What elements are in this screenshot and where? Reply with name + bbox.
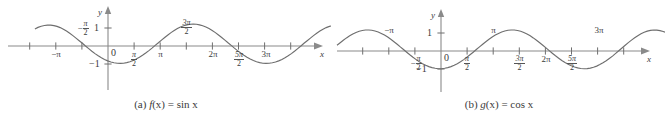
cosine-x-tick-label-pi: π	[484, 26, 503, 35]
sine-caption-arg: (x)	[152, 98, 165, 110]
cosine-x-axis-label: x	[647, 54, 651, 64]
cosine-curve	[337, 30, 665, 69]
fraction: 5π2	[567, 55, 577, 72]
sine-x-tick-label-neg-pi-over-2: −π2	[71, 20, 95, 37]
cosine-x-tick-label-5pi-over-2: 5π2	[562, 55, 582, 72]
sine-plot: 0 y x 1 −1 −π −π2 π2 π 3π2 2π 5π2 3π	[0, 0, 332, 96]
cosine-svg	[333, 0, 665, 96]
cosine-plot: 0 y x 1 −1 −π −π2 π2 π 3π2 2π 5π2 3π	[333, 0, 665, 96]
sine-y-tick-label-neg1: −1	[89, 58, 100, 69]
cosine-origin-label: 0	[444, 52, 449, 63]
cosine-y-tick-label-1: 1	[427, 27, 432, 38]
cosine-caption-equals: =	[501, 98, 507, 110]
cosine-panel: 0 y x 1 −1 −π −π2 π2 π 3π2 2π 5π2 3π (b)…	[333, 0, 665, 122]
trig-graphs-figure: 0 y x 1 −1 −π −π2 π2 π 3π2 2π 5π2 3π (a)…	[0, 0, 665, 122]
cosine-x-tick-label-3pi-over-2: 3π2	[510, 55, 529, 72]
fraction: π2	[464, 55, 470, 72]
cosine-caption-index: (b)	[465, 98, 478, 110]
cosine-y-axis-label: y	[431, 10, 435, 20]
cosine-caption-expression: cos x	[510, 98, 533, 110]
cosine-caption-arg: (x)	[486, 98, 499, 110]
sine-x-axis-label: x	[320, 49, 324, 59]
sine-panel: 0 y x 1 −1 −π −π2 π2 π 3π2 2π 5π2 3π (a)…	[0, 0, 332, 122]
cosine-caption: (b) g(x) = cos x	[333, 98, 665, 110]
sine-y-axis-label: y	[98, 7, 102, 17]
sine-x-tick-label-neg-pi: −π	[45, 50, 67, 59]
fraction: 5π2	[234, 51, 244, 68]
fraction: π2	[131, 51, 137, 68]
cosine-x-tick-label-pi-over-2: π2	[457, 55, 477, 72]
sine-x-tick-label-3pi: 3π	[255, 50, 277, 59]
sine-x-tick-label-5pi-over-2: 5π2	[229, 51, 249, 68]
sine-x-tick-label-pi-over-2: π2	[124, 51, 144, 68]
sine-caption-index: (a)	[134, 98, 146, 110]
sine-svg	[0, 0, 332, 96]
fraction: 3π2	[181, 19, 191, 36]
sine-caption: (a) f(x) = sin x	[0, 98, 332, 110]
fraction: 3π2	[514, 55, 524, 72]
cosine-x-tick-label-neg-pi-over-2: −π2	[404, 55, 428, 72]
sine-caption-equals: =	[168, 98, 174, 110]
cosine-x-tick-label-3pi: 3π	[588, 26, 610, 35]
sine-origin-label: 0	[111, 47, 116, 58]
sine-x-tick-label-2pi: 2π	[202, 50, 224, 59]
sine-x-tick-label-pi: π	[151, 50, 170, 59]
sine-x-tick-label-3pi-over-2: 3π2	[177, 19, 196, 36]
fraction: π2	[416, 55, 422, 72]
cosine-x-tick-label-neg-pi: −π	[378, 26, 400, 35]
cosine-x-tick-label-2pi: 2π	[535, 55, 557, 64]
fraction: π2	[83, 20, 89, 37]
sine-caption-expression: sin x	[177, 98, 198, 110]
